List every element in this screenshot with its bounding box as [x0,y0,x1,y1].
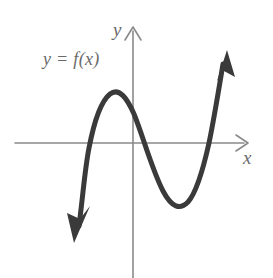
graph-canvas [0,0,273,278]
function-curve [79,64,223,226]
function-graph-figure: y x y = f(x) [0,0,273,278]
x-axis-label: x [243,148,251,167]
curve-arrowhead-upper-right-icon [217,50,235,81]
function-equation-label: y = f(x) [43,50,100,68]
y-axis-label: y [113,20,121,39]
